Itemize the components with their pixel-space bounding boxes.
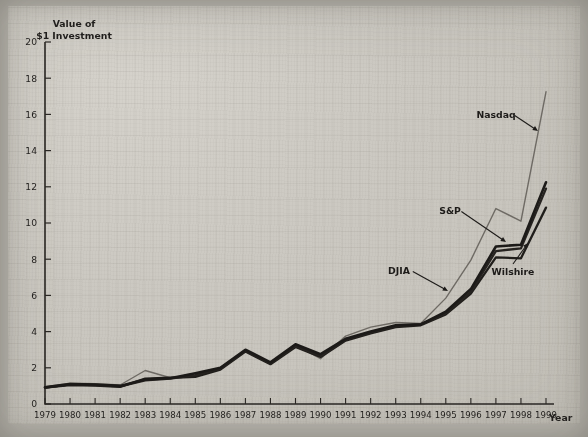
figure-page: Value of $1 Investment Year 024681012141… <box>0 0 588 437</box>
annotation-label: Wilshire <box>492 266 535 277</box>
x-tick-label: 1988 <box>260 410 282 420</box>
x-tick-label: 1995 <box>435 410 457 420</box>
x-tick-label: 1990 <box>310 410 332 420</box>
x-tick-label: 1985 <box>184 410 206 420</box>
annotation-nasdaq: Nasdaq <box>476 109 538 131</box>
y-axis-ticks: 02468101214161820 <box>25 36 51 409</box>
series-line-nasdaq <box>45 92 546 387</box>
x-tick-label: 1994 <box>410 410 432 420</box>
x-tick-label: 1983 <box>134 410 156 420</box>
x-tick-label: 1980 <box>59 410 81 420</box>
y-tick-label: 10 <box>25 217 37 228</box>
annotation-label: Nasdaq <box>476 109 515 120</box>
x-tick-label: 1987 <box>234 410 256 420</box>
series-line-wilshire <box>45 208 546 388</box>
x-tick-label: 1984 <box>159 410 181 420</box>
y-tick-label: 12 <box>25 181 37 192</box>
x-tick-label: 1989 <box>285 410 307 420</box>
x-tick-label: 1979 <box>34 410 56 420</box>
annotation-s-p: S&P <box>439 205 506 242</box>
x-tick-label: 1982 <box>109 410 131 420</box>
y-tick-label: 16 <box>25 109 37 120</box>
x-tick-label: 1981 <box>84 410 106 420</box>
x-tick-label: 1998 <box>510 410 532 420</box>
series-line-s-p <box>45 182 546 387</box>
x-axis-ticks: 1979198019811982198319841985198619871988… <box>34 398 557 420</box>
annotation-arrowhead <box>532 126 538 131</box>
y-tick-label: 6 <box>31 290 37 301</box>
y-tick-label: 18 <box>25 73 37 84</box>
y-tick-label: 8 <box>31 254 37 265</box>
y-tick-label: 4 <box>31 326 37 337</box>
annotation-arrowhead <box>500 237 506 242</box>
x-tick-label: 1999 <box>535 410 557 420</box>
annotation-label: DJIA <box>388 265 411 276</box>
x-tick-label: 1992 <box>360 410 382 420</box>
annotation-label: S&P <box>439 205 461 216</box>
x-tick-label: 1991 <box>335 410 357 420</box>
annotation-djia: DJIA <box>388 265 448 291</box>
x-tick-label: 1997 <box>485 410 507 420</box>
y-tick-label: 0 <box>31 398 37 409</box>
chart-canvas: 0246810121416182019791980198119821983198… <box>0 0 588 437</box>
x-tick-label: 1993 <box>385 410 407 420</box>
y-tick-label: 2 <box>31 362 37 373</box>
y-tick-label: 14 <box>25 145 37 156</box>
y-tick-label: 20 <box>25 36 37 47</box>
x-tick-label: 1996 <box>460 410 482 420</box>
x-tick-label: 1986 <box>209 410 231 420</box>
